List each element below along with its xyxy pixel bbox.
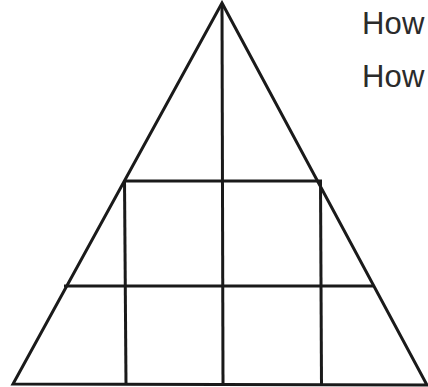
grid-line-vertical-left bbox=[125, 180, 127, 385]
grid-line-vertical-right bbox=[321, 180, 322, 385]
triangle-outline bbox=[13, 3, 427, 385]
diagram-canvas: How How bbox=[0, 0, 428, 387]
grid-line-vertical-center bbox=[222, 5, 223, 385]
triangle-grid-figure bbox=[0, 0, 428, 387]
